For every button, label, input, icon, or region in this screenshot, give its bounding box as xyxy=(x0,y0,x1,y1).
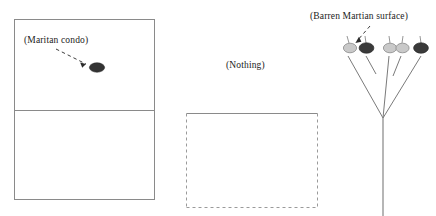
tree-tip-5 xyxy=(420,36,421,43)
tree-tip-3 xyxy=(389,36,390,43)
surface-pointer-arrow xyxy=(355,26,370,43)
tree-branch-middle xyxy=(383,56,389,118)
tree-branch-inner-right xyxy=(393,56,401,76)
tree-node-2-dark-ellipse xyxy=(359,43,374,53)
tree-branch-inner-left xyxy=(366,56,376,74)
tree-node-3-light-ellipse xyxy=(383,43,396,53)
left-solid-rectangle xyxy=(15,20,155,200)
tree-tip-1 xyxy=(347,36,349,43)
dark-ellipse-marker xyxy=(89,63,104,72)
barren-martian-surface-label: (Barren Martian surface) xyxy=(310,12,408,22)
tree-branch-right xyxy=(383,56,421,118)
nothing-label: (Nothing) xyxy=(226,61,265,71)
maritan-condo-label: (Maritan condo) xyxy=(24,36,88,46)
tree-tip-4 xyxy=(402,36,403,43)
diagram-vector-layer xyxy=(0,0,436,216)
middle-panel-group xyxy=(187,114,318,208)
tree-node-1-light-ellipse xyxy=(343,43,356,53)
tree-node-5-dark-ellipse xyxy=(414,43,429,53)
diagram-canvas: (Maritan condo) (Nothing) (Barren Martia… xyxy=(0,0,436,216)
left-panel-group xyxy=(15,20,155,200)
tree-tip-2 xyxy=(365,36,366,43)
tree-panel-group xyxy=(343,26,428,216)
tree-branch-left xyxy=(348,56,383,118)
tree-node-4-light-ellipse xyxy=(396,43,409,53)
